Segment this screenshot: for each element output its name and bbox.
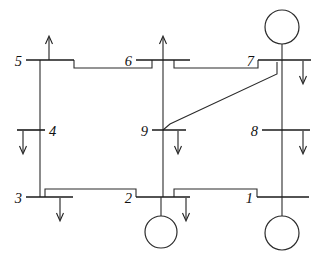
injection-arrow-bus-6 — [160, 36, 167, 60]
branch-9-7-diagonal[interactable] — [163, 62, 277, 130]
bus-label-9: 9 — [141, 123, 149, 139]
one-line-diagram-svg: 1 2 3 4 5 6 7 8 9 — [0, 0, 328, 260]
injection-arrow-bus-5 — [46, 36, 53, 60]
branch-2-1[interactable] — [174, 189, 257, 197]
injection-arrow-bus-3 — [57, 198, 64, 221]
transmission-branches — [40, 60, 282, 197]
injection-arrow-bus-7 — [300, 61, 307, 84]
bus-label-8: 8 — [251, 123, 259, 139]
branch-3-2[interactable] — [45, 189, 136, 197]
generator-circle-2[interactable] — [145, 216, 177, 248]
generator-circle-1[interactable] — [265, 216, 299, 250]
bus-label-5: 5 — [15, 53, 22, 69]
injection-arrow-bus-8 — [300, 131, 307, 154]
one-line-diagram-canvas: 1 2 3 4 5 6 7 8 9 — [0, 0, 328, 260]
bus-labels: 1 2 3 4 5 6 7 8 9 — [14, 53, 259, 206]
branch-6-7[interactable] — [174, 60, 258, 68]
branch-5-6[interactable] — [74, 60, 152, 68]
injection-arrow-bus-2 — [183, 198, 190, 221]
bus-label-7: 7 — [247, 53, 255, 69]
bus-label-4: 4 — [49, 123, 56, 139]
bus-label-6: 6 — [125, 53, 133, 69]
generator-circle-7[interactable] — [265, 10, 299, 44]
bus-label-1: 1 — [246, 190, 253, 206]
bus-label-3: 3 — [14, 190, 22, 206]
injection-arrow-bus-4 — [20, 131, 27, 154]
bus-label-2: 2 — [125, 190, 132, 206]
injection-arrow-bus-9 — [175, 131, 182, 154]
